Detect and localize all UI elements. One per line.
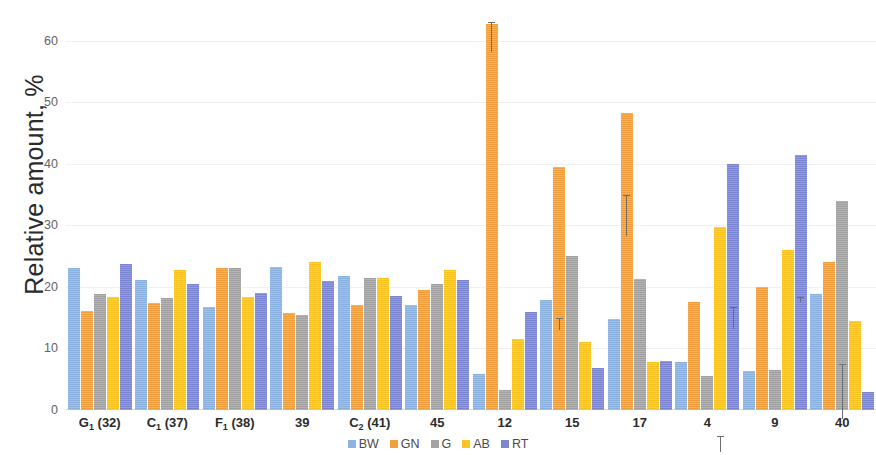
bar-bw[interactable]: [405, 305, 417, 410]
bar-rect: [525, 312, 537, 410]
bar-bw[interactable]: [135, 280, 147, 410]
bar-gn[interactable]: [283, 313, 295, 410]
bar-gn[interactable]: [823, 262, 835, 410]
error-bar-cap: [623, 195, 630, 196]
x-tick-label: 12: [471, 415, 539, 437]
bar-bw[interactable]: [473, 374, 485, 410]
bar-ab[interactable]: [849, 321, 861, 410]
bar-group: [741, 10, 809, 410]
bar-g[interactable]: [701, 376, 713, 410]
bar-g[interactable]: [836, 201, 848, 410]
bar-rect: [242, 297, 254, 410]
bar-rt[interactable]: [525, 312, 537, 410]
legend-label: AB: [473, 437, 490, 451]
bar-rect: [810, 294, 822, 410]
bar-rt[interactable]: [120, 264, 132, 410]
bar-rect: [688, 302, 700, 410]
bar-rt[interactable]: [795, 155, 807, 410]
bar-ab[interactable]: [107, 297, 119, 410]
bar-rect: [148, 303, 160, 410]
bar-rt[interactable]: [255, 293, 267, 410]
bar-bw[interactable]: [203, 307, 215, 410]
bar-ab[interactable]: [647, 362, 659, 410]
legend-label: BW: [359, 437, 379, 451]
bar-rect: [68, 268, 80, 410]
bar-gn[interactable]: [756, 287, 768, 410]
legend-item-g[interactable]: G: [431, 437, 452, 451]
bar-gn[interactable]: [351, 305, 363, 410]
bar-g[interactable]: [296, 315, 308, 410]
bar-g[interactable]: [364, 278, 376, 410]
bar-rect: [405, 305, 417, 410]
bar-rect: [714, 227, 726, 410]
bar-g[interactable]: [431, 284, 443, 410]
bar-ab[interactable]: [782, 250, 794, 410]
error-bar-cap: [730, 307, 737, 308]
x-tick-label: F1 (38): [201, 415, 269, 437]
x-tick-label: 40: [809, 415, 876, 437]
x-tick-label: 9: [741, 415, 809, 437]
bar-rt[interactable]: [187, 284, 199, 410]
bar-bw[interactable]: [270, 267, 282, 410]
bar-bw[interactable]: [743, 371, 755, 410]
bar-group: [66, 10, 134, 410]
bar-gn[interactable]: [486, 24, 498, 410]
x-tick-label: C2 (41): [336, 415, 404, 437]
bar-g[interactable]: [769, 370, 781, 410]
bar-gn[interactable]: [81, 311, 93, 410]
bar-ab[interactable]: [174, 270, 186, 410]
error-bar-cap: [556, 318, 563, 319]
bar-bw[interactable]: [540, 300, 552, 410]
bar-gn[interactable]: [688, 302, 700, 410]
legend-item-ab[interactable]: AB: [462, 437, 490, 451]
bar-gn[interactable]: [216, 268, 228, 410]
bar-rt[interactable]: [727, 164, 739, 410]
error-bar: [842, 364, 843, 419]
bar-bw[interactable]: [608, 319, 620, 410]
bar-ab[interactable]: [309, 262, 321, 410]
bar-rect: [351, 305, 363, 410]
legend-label: G: [442, 437, 452, 451]
bar-rt[interactable]: [660, 361, 672, 410]
bar-rect: [431, 284, 443, 410]
bar-ab[interactable]: [444, 270, 456, 410]
bar-ab[interactable]: [579, 342, 591, 410]
bar-rt[interactable]: [322, 281, 334, 410]
bar-ab[interactable]: [242, 297, 254, 410]
bar-g[interactable]: [161, 298, 173, 410]
bar-ab[interactable]: [512, 339, 524, 410]
bar-rect: [743, 371, 755, 410]
bar-rect: [187, 284, 199, 410]
bar-bw[interactable]: [810, 294, 822, 410]
bar-bw[interactable]: [675, 362, 687, 410]
bar-bw[interactable]: [338, 276, 350, 410]
bar-g[interactable]: [94, 294, 106, 410]
bar-g[interactable]: [634, 279, 646, 410]
legend-label: RT: [512, 437, 528, 451]
bar-rt[interactable]: [592, 368, 604, 410]
bar-rt[interactable]: [862, 392, 874, 410]
bar-gn[interactable]: [621, 113, 633, 410]
bar-gn[interactable]: [553, 167, 565, 410]
legend-item-gn[interactable]: GN: [390, 437, 420, 451]
bar-gn[interactable]: [148, 303, 160, 410]
error-bar-cap: [797, 297, 804, 298]
bar-bw[interactable]: [68, 268, 80, 410]
bar-rect: [203, 307, 215, 410]
bar-g[interactable]: [566, 256, 578, 410]
bar-rt[interactable]: [390, 296, 402, 410]
bar-g[interactable]: [229, 268, 241, 410]
bar-rect: [795, 155, 807, 410]
legend-swatch-icon: [462, 440, 470, 448]
bar-ab[interactable]: [714, 227, 726, 410]
bar-g[interactable]: [499, 390, 511, 410]
bar-rect: [135, 280, 147, 410]
legend-item-rt[interactable]: RT: [501, 437, 528, 451]
bar-ab[interactable]: [377, 278, 389, 410]
bar-gn[interactable]: [418, 290, 430, 410]
bar-rect: [592, 368, 604, 410]
bar-rt[interactable]: [457, 280, 469, 410]
bar-rect: [621, 113, 633, 410]
bar-rect: [174, 270, 186, 410]
legend-item-bw[interactable]: BW: [348, 437, 379, 451]
